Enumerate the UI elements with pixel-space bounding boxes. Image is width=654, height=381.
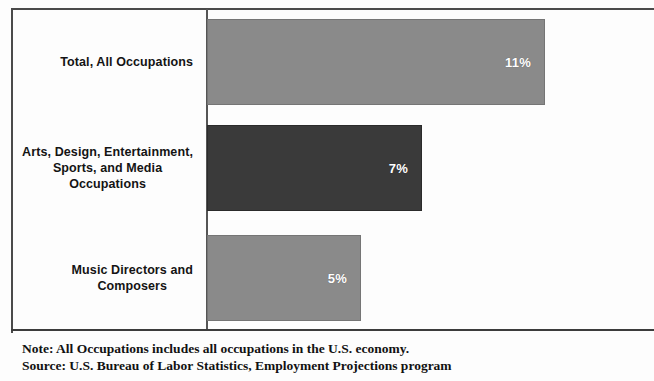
chart-notes: Note: All Occupations includes all occup…	[22, 340, 642, 374]
bar-row: Arts, Design, Entertainment, Sports, and…	[13, 125, 654, 211]
notes-divider	[11, 329, 654, 331]
source-text: Source: U.S. Bureau of Labor Statistics,…	[22, 357, 642, 374]
bar-music-directors-composers: 5%	[207, 235, 361, 321]
bar-arts-design-entertainment: 7%	[207, 125, 422, 211]
chart-figure: Total, All Occupations 11% Arts, Design,…	[0, 0, 654, 381]
bar-total-all-occupations: 11%	[207, 19, 545, 105]
bar-value-label: 11%	[505, 55, 544, 70]
plot-area: Total, All Occupations 11% Arts, Design,…	[0, 0, 654, 330]
bar-value-label: 5%	[328, 271, 360, 286]
note-text: Note: All Occupations includes all occup…	[22, 340, 642, 357]
category-label: Music Directors and Composers	[13, 235, 201, 321]
bar-row: Total, All Occupations 11%	[13, 19, 654, 105]
bar-row: Music Directors and Composers 5%	[13, 235, 654, 321]
category-label: Total, All Occupations	[13, 19, 201, 105]
category-label: Arts, Design, Entertainment, Sports, and…	[13, 125, 201, 211]
bar-value-label: 7%	[389, 161, 421, 176]
